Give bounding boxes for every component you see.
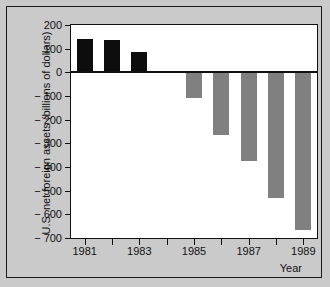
- y-tick-label: − 200: [34, 115, 62, 126]
- y-tick: [65, 214, 71, 215]
- x-tick-label: 1989: [291, 246, 315, 257]
- y-tick-label: 200: [44, 20, 62, 31]
- y-tick: [65, 120, 71, 121]
- bar-1987: [241, 72, 257, 161]
- y-tick: [65, 25, 71, 26]
- bar-1983: [131, 52, 147, 73]
- y-tick-label: − 500: [34, 186, 62, 197]
- y-tick: [65, 143, 71, 144]
- y-tick-label: − 600: [34, 209, 62, 220]
- y-axis-tick-labels: 2001000− 100− 200− 300− 400− 500− 600− 7…: [7, 24, 70, 239]
- zero-line: [71, 71, 317, 73]
- x-tick-label: 1987: [236, 246, 260, 257]
- y-tick: [65, 72, 71, 73]
- y-tick-label: − 100: [34, 91, 62, 102]
- bars-layer: [71, 25, 317, 238]
- x-tick-label: 1985: [182, 246, 206, 257]
- x-tick-label: 1983: [127, 246, 151, 257]
- x-axis-tick-labels: 19811983198519871989: [70, 246, 318, 262]
- y-tick-label: − 400: [34, 162, 62, 173]
- y-tick: [65, 49, 71, 50]
- bar-1981: [77, 39, 93, 72]
- x-tick: [276, 239, 277, 245]
- bar-1989: [295, 72, 311, 229]
- bar-1988: [268, 72, 284, 198]
- y-tick: [65, 96, 71, 97]
- bar-1985: [186, 72, 202, 98]
- y-tick-label: 100: [44, 44, 62, 55]
- y-tick: [65, 167, 71, 168]
- bar-1982: [104, 40, 120, 72]
- x-tick: [112, 239, 113, 245]
- figure-frame: U.S. net foreign assets (billions of dol…: [6, 6, 322, 278]
- plot-area: [70, 24, 318, 239]
- x-tick: [221, 239, 222, 245]
- y-tick-label: − 700: [34, 233, 62, 244]
- x-tick-label: 1981: [72, 246, 96, 257]
- chart-figure: U.S. net foreign assets (billions of dol…: [0, 0, 330, 287]
- y-tick-label: − 300: [34, 138, 62, 149]
- x-tick: [167, 239, 168, 245]
- y-axis-ticks: [70, 24, 71, 239]
- y-tick-label: 0: [56, 67, 62, 78]
- x-axis-title: Year: [280, 263, 302, 274]
- bar-1986: [213, 72, 229, 135]
- y-tick: [65, 191, 71, 192]
